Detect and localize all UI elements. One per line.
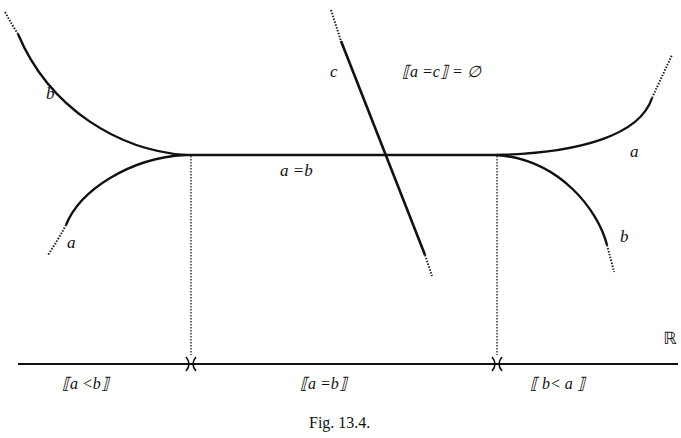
label-b-right: b [620, 227, 629, 246]
label-a-right: a [630, 142, 639, 161]
label-c: c [330, 62, 338, 81]
label-a-left: a [67, 233, 76, 252]
interval-a-less-b: ⟦a <b⟧ [62, 375, 111, 392]
curve-a-right [497, 98, 652, 155]
label-a-equals-b: a =b [280, 161, 313, 180]
figure-caption: Fig. 13.4. [309, 414, 370, 432]
annotation-a-equals-c-empty: ⟦a =c⟧ = ∅ [402, 63, 482, 80]
interval-a-equals-b: ⟦a =b⟧ [300, 375, 349, 392]
curve-b-right-tail [607, 245, 614, 272]
curve-a-right-tail [652, 55, 672, 98]
curve-a-left [66, 155, 185, 225]
curve-b-left [18, 34, 185, 155]
curve-b-right [497, 155, 607, 245]
figure-canvas: b a a b c a =b ⟦a =c⟧ = ∅ ℝ ⟦a <b⟧ ⟦a =b… [0, 0, 681, 438]
label-b-left: b [46, 84, 55, 103]
axis-label-reals: ℝ [663, 328, 677, 348]
curve-a-left-tail [48, 225, 66, 255]
interval-b-less-a: ⟦ b< a ⟧ [530, 375, 587, 392]
line-c-top-tail [331, 10, 341, 41]
line-c-bottom-tail [425, 255, 432, 276]
curve-b-left-tail [5, 12, 18, 34]
